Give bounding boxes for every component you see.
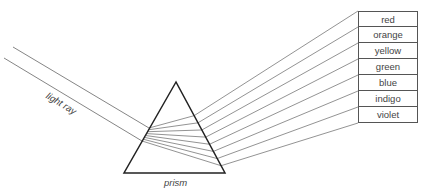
- spectrum-row-violet: violet: [358, 107, 418, 123]
- prism-label: prism: [164, 177, 187, 188]
- dispersed-rays: [194, 11, 358, 166]
- spectrum-color-table: redorangeyellowgreenblueindigoviolet: [358, 11, 418, 123]
- spectrum-row-red: red: [358, 11, 418, 27]
- spectrum-row-yellow: yellow: [358, 43, 418, 59]
- spectrum-row-green: green: [358, 59, 418, 75]
- incoming-light-ray: [4, 47, 149, 141]
- spectrum-row-orange: orange: [358, 27, 418, 43]
- spectrum-row-indigo: indigo: [358, 91, 418, 107]
- spectrum-row-blue: blue: [358, 75, 418, 91]
- prism-triangle: [124, 82, 225, 173]
- refracted-rays-inside: [142, 116, 221, 166]
